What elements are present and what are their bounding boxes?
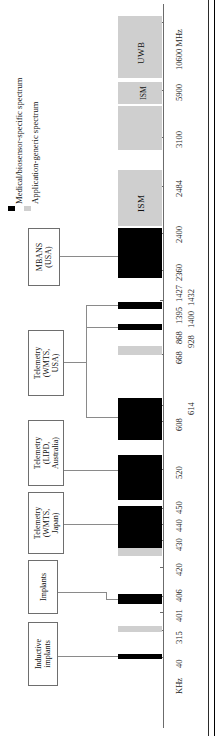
axis-tick: [160, 612, 164, 613]
leader-inductive-implants: [58, 656, 118, 657]
axis-tick-label: 868: [175, 331, 184, 344]
band-ism-5900-label: ISM: [140, 73, 148, 113]
band-mbans-2360: [118, 228, 162, 278]
band-meds-401-406: [118, 594, 162, 604]
axis-tick-label: 614: [187, 402, 196, 415]
leader-implants-a: [58, 592, 106, 593]
axis-tick-label: 668: [175, 351, 184, 364]
callout-mbans-usa[interactable]: MBANS (USA): [28, 228, 60, 286]
axis-tick-label: 1395: [175, 307, 184, 324]
figure-frame-right-edge: [214, 0, 216, 736]
leader-wmts-usa-608: [86, 417, 118, 418]
leader-telemetry-lipd-australia: [64, 470, 118, 471]
band-ism-2400-label: ISM: [136, 194, 146, 212]
callout-telemetry-wmts-japan[interactable]: Telemetry (WMTS, Japan): [28, 492, 64, 554]
axis-tick: [160, 567, 164, 568]
callout-inductive-implants[interactable]: Inductive implants: [28, 622, 58, 686]
axis-tick-label: 928: [187, 335, 196, 348]
callout-implants-text: Implants: [39, 573, 48, 601]
legend-swatch-medical-icon: [8, 206, 15, 211]
axis-tick-label: 401: [175, 609, 184, 622]
callout-implants[interactable]: Implants: [28, 560, 58, 614]
leader-wmts-usa-stem: [64, 362, 86, 363]
band-315: [118, 626, 162, 632]
axis-tick-label: 420: [175, 563, 184, 576]
leader-implants-b: [106, 592, 107, 599]
callout-telemetry-wmts-usa-text: Telemetry (WMTS, USA): [33, 347, 60, 379]
axis-tick-label: 5900: [175, 84, 184, 101]
legend-label-generic: Application-generic spectrum: [31, 102, 40, 204]
band-wmts-520: [118, 455, 162, 500]
axis-tick-label-high-unit: 10600 MHz: [175, 29, 184, 70]
band-420-450: [118, 506, 162, 548]
callout-mbans-usa-text: MBANS (USA): [35, 243, 53, 271]
legend-swatch-generic-icon: [24, 206, 31, 211]
frequency-axis-line: [163, 4, 164, 728]
leader-implants-c: [106, 599, 118, 600]
axis-tick-label: 520: [175, 466, 184, 479]
figure-frame-inner-edge: [208, 0, 209, 736]
axis-tick-label: 315: [175, 631, 184, 644]
axis-tick-label: 406: [175, 589, 184, 602]
axis-unit-low-label: KHz: [175, 678, 184, 694]
leader-telemetry-wmts-japan: [64, 524, 118, 525]
axis-tick-label: 40: [175, 660, 184, 669]
callout-telemetry-wmts-japan-text: Telemetry (WMTS, Japan): [33, 507, 60, 539]
legend-label-medical: Medical/biosensor-specific spectrum: [15, 77, 24, 204]
callout-telemetry-lipd-australia-text: Telemetry (LIPD, Australia): [33, 437, 60, 469]
callout-telemetry-lipd-australia[interactable]: Telemetry (LIPD, Australia): [28, 420, 64, 486]
axis-tick-label: 3100: [175, 131, 184, 148]
band-uwb-label: UWB: [136, 42, 146, 65]
band-1395-1400: [118, 324, 162, 330]
axis-tick-label: 1400: [187, 311, 196, 328]
axis-tick-label: 430: [175, 538, 184, 551]
band-430-440: [118, 548, 162, 556]
callout-telemetry-wmts-usa[interactable]: Telemetry (WMTS, USA): [28, 330, 64, 396]
leader-wmts-usa-1395: [86, 327, 118, 328]
axis-tick-label: 450: [175, 501, 184, 514]
axis-tick-label: 1427: [175, 285, 184, 302]
band-868-928: [118, 346, 162, 355]
band-1427-1432: [118, 302, 162, 309]
callout-inductive-implants-text: Inductive implants: [34, 639, 52, 669]
band-inductive: [118, 654, 162, 659]
band-wmts-608-614: [118, 398, 162, 440]
axis-tick-label: 2360: [175, 264, 184, 281]
leader-mbans-usa: [60, 256, 118, 257]
axis-tick-label: 2484: [175, 180, 184, 197]
axis-tick-label: 608: [175, 418, 184, 431]
axis-tick: [160, 300, 164, 301]
axis-tick-label: 440: [175, 519, 184, 532]
leader-wmts-usa-bus: [86, 305, 87, 417]
axis-tick-label: 1432: [187, 289, 196, 306]
leader-wmts-usa-1427: [86, 305, 118, 306]
axis-tick-label: 2400: [175, 226, 184, 243]
